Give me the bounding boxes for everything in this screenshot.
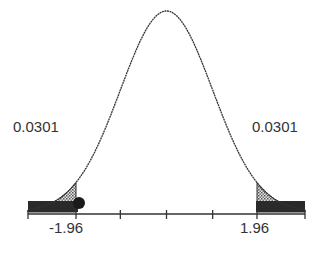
normal-distribution-chart: 0.0301 0.0301 -1.96 1.96 [0,0,326,259]
density-curve [28,11,305,210]
left-tail-label: 0.0301 [13,118,59,135]
critical-value-marker [73,197,85,209]
left-critical-value-label: -1.96 [49,219,83,236]
right-critical-value-label: 1.96 [240,219,269,236]
right-tail-label: 0.0301 [252,118,298,135]
